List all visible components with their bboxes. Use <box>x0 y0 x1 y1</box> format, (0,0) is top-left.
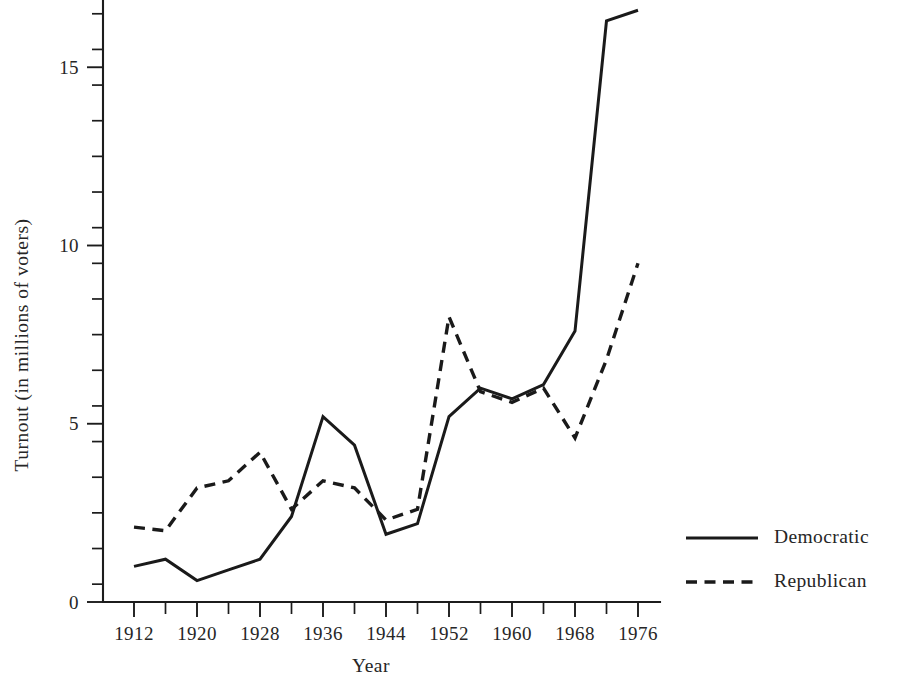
x-axis-tick-label: 1952 <box>429 623 469 644</box>
axis-tick-labels: 0510151912192019281936194419521960196819… <box>59 57 658 644</box>
series-line-republican <box>134 263 638 530</box>
x-axis-tick-label: 1920 <box>177 623 217 644</box>
x-axis-tick-label: 1976 <box>618 623 658 644</box>
legend-label-democratic: Democratic <box>774 526 869 547</box>
y-axis-title: Turnout (in millions of voters) <box>11 218 33 471</box>
axis-spine <box>103 0 660 602</box>
x-axis-tick-label: 1960 <box>492 623 532 644</box>
y-axis-tick-label: 5 <box>69 413 79 434</box>
line-chart: 0510151912192019281936194419521960196819… <box>0 0 897 696</box>
y-axis-tick-label: 15 <box>59 57 79 78</box>
x-axis-title: Year <box>352 655 390 676</box>
x-axis-tick-label: 1928 <box>240 623 280 644</box>
y-axis-tick-label: 10 <box>59 235 79 256</box>
x-axis-tick-label: 1912 <box>114 623 154 644</box>
x-axis-tick-label: 1968 <box>555 623 595 644</box>
chart-figure: 0510151912192019281936194419521960196819… <box>0 0 897 696</box>
series-line-democratic <box>134 10 638 580</box>
x-axis-tick-label: 1944 <box>366 623 406 644</box>
legend-label-republican: Republican <box>774 570 867 591</box>
chart-legend: DemocraticRepublican <box>686 526 869 591</box>
y-axis-tick-label: 0 <box>69 592 79 613</box>
data-series <box>134 10 638 580</box>
x-axis-tick-label: 1936 <box>303 623 343 644</box>
axes <box>103 0 660 602</box>
